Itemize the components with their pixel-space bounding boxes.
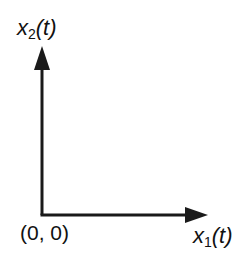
x-axis-subscript: 1 [204,234,212,250]
origin-label: (0, 0) [20,222,69,243]
y-axis-argument: (t) [36,15,57,40]
axes-diagram: x2(t) (0, 0) x1(t) [0,0,246,258]
y-axis-subscript: 2 [28,26,36,42]
y-axis-arrowhead-icon [34,46,50,70]
y-axis-variable: x [17,15,28,40]
x-axis-argument: (t) [212,223,233,248]
x-axis-variable: x [193,223,204,248]
x-axis-arrowhead-icon [185,207,208,223]
y-axis-label: x2(t) [17,17,57,41]
x-axis-label: x1(t) [193,225,233,249]
